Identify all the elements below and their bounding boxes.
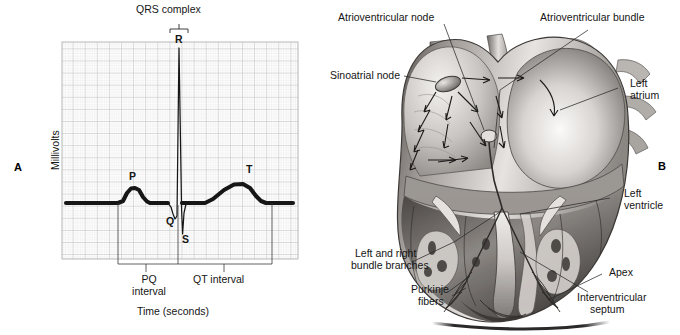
label-bundle-branches-line2: bundle branches	[351, 260, 429, 272]
label-interventricular-septum-line2: septum	[590, 304, 624, 316]
label-left-ventricle-line2: ventricle	[624, 200, 663, 212]
panel-b-letter: B	[658, 160, 666, 172]
label-left-atrium-line2: atrium	[630, 90, 659, 102]
wave-label-p: P	[129, 171, 136, 183]
label-apex: Apex	[609, 267, 633, 279]
panel-a-letter: A	[14, 161, 22, 173]
label-left-atrium-line1: Left	[630, 78, 648, 90]
pq-interval-label-line2: interval	[125, 286, 173, 298]
label-left-ventricle-line1: Left	[624, 188, 642, 200]
label-atrioventricular-node: Atrioventricular node	[338, 12, 434, 24]
wave-label-r: R	[175, 34, 183, 46]
wave-label-t: T	[246, 164, 252, 176]
ecg-title: QRS complex	[136, 4, 201, 16]
label-atrioventricular-bundle: Atrioventricular bundle	[540, 12, 644, 24]
qrs-bracket	[170, 24, 188, 33]
qt-interval-label: QT interval	[193, 274, 244, 286]
label-bundle-branches-line1: Left and right	[355, 248, 416, 260]
wave-label-q: Q	[166, 216, 174, 228]
heart-body	[397, 37, 628, 323]
wave-label-s: S	[182, 234, 189, 246]
label-purkinje-fibers-line1: Purkinje	[411, 284, 449, 296]
figure-conduction-system: QRS complex R P Q S T PQ interval QT int…	[0, 0, 680, 335]
pq-interval-label-line1: PQ	[134, 274, 164, 286]
label-purkinje-fibers-line2: fibers	[418, 296, 444, 308]
label-sinoatrial-node: Sinoatrial node	[330, 70, 400, 82]
label-interventricular-septum-line1: Interventricular	[577, 292, 646, 304]
base-shadow-line	[432, 322, 610, 329]
figure-canvas	[0, 0, 680, 335]
ecg-y-axis-label: Millivolts	[50, 130, 62, 170]
ecg-x-axis-label: Time (seconds)	[137, 306, 209, 318]
